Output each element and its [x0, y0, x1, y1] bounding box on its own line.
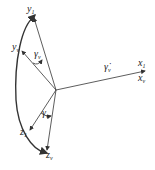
label-xv: xv [138, 73, 145, 84]
label-gamma-dot: γ̇v [104, 62, 111, 73]
label-gamma-bottom: γv [42, 108, 49, 119]
axis-zv [47, 90, 56, 150]
label-x1: x1 [138, 58, 145, 69]
label-y1: y1 [27, 4, 34, 15]
rotation-diagram [0, 0, 155, 170]
label-z1: z1 [20, 127, 27, 138]
label-yv: yv [12, 42, 19, 53]
axis-x1 [56, 71, 145, 90]
label-gamma-top: γv [34, 49, 41, 60]
angle-arc-top [33, 60, 42, 64]
label-zv: zv [46, 150, 53, 161]
